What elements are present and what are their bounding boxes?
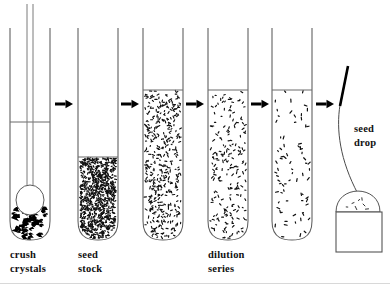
label-line-2: drop [354, 137, 376, 148]
arrow-2 [121, 100, 139, 109]
tube-outline [143, 28, 183, 240]
microcrystal-stipple [80, 157, 117, 238]
tube-dilution-3[interactable] [272, 28, 312, 240]
tube-dilution-1[interactable] [143, 28, 183, 240]
label-crush-crystals: crushcrystals [10, 249, 46, 274]
whisker-black-tip [340, 66, 348, 106]
coverslip-well-rect [336, 212, 382, 252]
label-seed-drop: seeddrop [354, 123, 376, 148]
label-dilution-series: dilutionseries [208, 249, 245, 274]
label-line-1: seed [354, 123, 374, 134]
microcrystal-stipple [275, 91, 310, 237]
label-seed-stock: seedstock [78, 249, 102, 274]
tubes-layer [10, 4, 312, 240]
arrows-layer [55, 100, 334, 109]
arrow-5 [316, 100, 334, 109]
label-line-1: dilution [208, 249, 245, 260]
glass-pestle-rod[interactable] [16, 4, 44, 215]
arrow-1 [55, 100, 73, 109]
arrow-4 [251, 100, 269, 109]
tube-dilution-2[interactable] [208, 28, 248, 240]
figure-canvas: crushcrystalsseedstockdilutionseriesseed… [0, 0, 390, 290]
tube-seed-stock[interactable] [78, 28, 118, 240]
label-line-2: series [208, 263, 234, 274]
label-line-1: crush [10, 249, 36, 260]
label-line-2: stock [78, 263, 102, 274]
label-line-2: crystals [10, 263, 46, 274]
arrow-3 [186, 100, 204, 109]
labels-layer: crushcrystalsseedstockdilutionseriesseed… [10, 123, 376, 274]
seed-drop-assembly [336, 66, 382, 252]
label-line-1: seed [78, 249, 98, 260]
tube-crush[interactable] [10, 4, 50, 240]
seed-drop-dome [336, 191, 380, 212]
seeding-dilution-diagram: crushcrystalsseedstockdilutionseriesseed… [0, 0, 390, 290]
microcrystal-stipple [210, 91, 247, 238]
tube-outline [208, 28, 248, 240]
microcrystal-stipple [144, 90, 181, 238]
